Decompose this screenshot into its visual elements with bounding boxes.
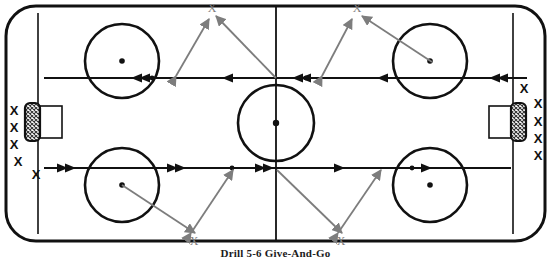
hockey-rink-diagram: X X X X X X X X X X X X X X (0, 0, 551, 258)
center-faceoff-dot (273, 120, 279, 126)
drill-caption: Drill 5-6 Give-And-Go (0, 247, 551, 258)
player-x-right-5: X (534, 148, 543, 163)
right-goal-crease (511, 103, 526, 141)
puck-top-lane-center (304, 76, 309, 81)
target-x-top-right: X (353, 1, 362, 15)
player-x-right-4: X (534, 131, 543, 146)
player-x-right-1: X (520, 81, 529, 96)
player-x-left-1: X (10, 103, 19, 118)
target-x-top-left: X (208, 1, 217, 15)
left-goal-cage (40, 106, 62, 138)
left-goal-crease (25, 103, 40, 141)
puck-bottom-lane-right (410, 166, 415, 171)
player-x-left-2: X (10, 120, 19, 135)
drill-diagram-page: X X X X X X X X X X X X X X Drill 5-6 Gi… (0, 0, 551, 258)
player-x-right-3: X (534, 114, 543, 129)
puck-bottom-lane-left (230, 166, 235, 171)
target-x-bottom-right: X (337, 234, 346, 248)
target-x-bottom-left: X (190, 234, 199, 248)
player-x-left-4: X (14, 154, 23, 169)
top-left-faceoff-dot (119, 58, 125, 64)
player-x-right-2: X (534, 96, 543, 111)
player-x-left-5: X (32, 167, 41, 182)
puck-top-lane-left (150, 76, 155, 81)
bottom-right-faceoff-dot (427, 182, 433, 188)
right-goal-cage (489, 106, 511, 138)
player-x-left-3: X (10, 137, 19, 152)
